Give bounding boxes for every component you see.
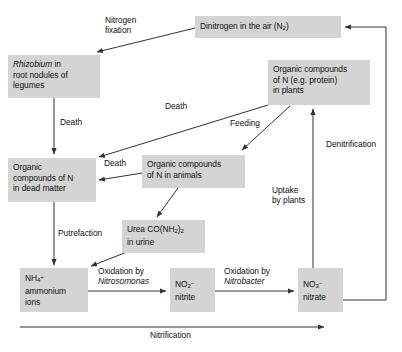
node-ammonium[interactable]: NH4+ ammonium ions [20, 268, 88, 312]
node-animals-line1: Organic compounds [147, 159, 240, 170]
node-animals-line2: of N in animals [147, 170, 240, 181]
node-nitrite-formula: NO2– [175, 278, 210, 292]
label-uptake-line1: Uptake [272, 185, 305, 195]
node-nitrite-line2: nitrite [175, 292, 210, 303]
node-rhizobium-line1: Rhizobium in [13, 59, 95, 70]
nitrogen-cycle-diagram: Dinitrogen in the air (N2) Rhizobium in … [0, 0, 402, 352]
edge-death-animals [99, 173, 142, 180]
edge-urea-to-ammonium [91, 252, 127, 266]
label-oxidation-nitrobacter: Oxidation by Nitrobacter [224, 266, 270, 287]
node-organic-compounds-plants[interactable]: Organic compounds of N (e.g. protein) in… [268, 60, 370, 105]
label-oxidation-nitrosomonas-line2: Nitrosomonas [98, 276, 149, 286]
label-nitrogen-fixation-line2: fixation [105, 25, 136, 35]
label-oxidation-nitrosomonas-line1: Oxidation by [98, 266, 149, 276]
label-nitrification: Nitrification [150, 330, 191, 340]
label-oxidation-nitrosomonas: Oxidation by Nitrosomonas [98, 266, 149, 287]
label-oxidation-nitrobacter-line1: Oxidation by [224, 266, 270, 276]
node-ammonium-line2: ammonium [25, 286, 83, 297]
node-dead-matter-line2: compounds of N [13, 173, 91, 184]
label-uptake-line2: by plants [272, 195, 305, 205]
node-organic-compounds-animals[interactable]: Organic compounds of N in animals [142, 155, 245, 188]
node-nitrate-formula: NO3– [303, 278, 338, 292]
node-urea-line1: Urea CO(NH2)2 [127, 224, 200, 237]
node-dinitrogen[interactable]: Dinitrogen in the air (N2) [195, 16, 341, 38]
label-nitrogen-fixation: Nitrogen fixation [105, 15, 136, 36]
label-putrefaction: Putrefaction [58, 228, 102, 238]
node-plants-line3: in plants [273, 85, 365, 96]
node-plants-line2: of N (e.g. protein) [273, 75, 365, 86]
node-nitrite[interactable]: NO2– nitrite [170, 268, 215, 312]
node-urea[interactable]: Urea CO(NH2)2 in urine [122, 220, 205, 253]
node-ammonium-line3: ions [25, 297, 83, 308]
node-dead-matter-line3: in dead matter [13, 183, 91, 194]
node-dinitrogen-label: Dinitrogen in the air (N2) [200, 21, 289, 34]
node-organic-compounds-dead-matter[interactable]: Organic compounds of N in dead matter [8, 158, 96, 202]
label-feeding: Feeding [230, 118, 260, 128]
node-nitrate[interactable]: NO3– nitrate [298, 268, 343, 312]
node-ammonium-formula: NH4+ [25, 272, 83, 286]
node-plants-line1: Organic compounds [273, 64, 365, 75]
label-death-rhizobium: Death [60, 117, 82, 127]
node-rhizobium[interactable]: Rhizobium in root nodules of legumes [8, 55, 100, 98]
node-urea-line2: in urine [127, 237, 200, 248]
edge-animals-to-urea [157, 188, 178, 217]
node-nitrate-line2: nitrate [303, 292, 338, 303]
node-dead-matter-line1: Organic [13, 162, 91, 173]
label-denitrification: Denitrification [326, 139, 376, 149]
node-rhizobium-line2: root nodules of [13, 70, 95, 81]
label-nitrogen-fixation-line1: Nitrogen [105, 15, 136, 25]
node-rhizobium-line3: legumes [13, 80, 95, 91]
label-uptake-by-plants: Uptake by plants [272, 185, 305, 206]
label-death-plants: Death [165, 101, 187, 111]
label-oxidation-nitrobacter-line2: Nitrobacter [224, 276, 270, 286]
label-death-animals: Death [104, 158, 126, 168]
